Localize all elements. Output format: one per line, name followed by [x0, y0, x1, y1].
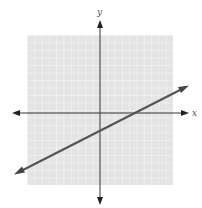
y-axis-top-arrow-icon: [97, 20, 103, 28]
x-axis-left-arrow-icon: [12, 110, 20, 116]
y-axis-label: y: [96, 7, 103, 17]
x-axis-label: x: [192, 108, 197, 118]
coordinate-plane: x y: [0, 0, 202, 208]
line-lower-arrow-icon: [14, 167, 25, 175]
x-axis-right-arrow-icon: [181, 110, 189, 116]
y-axis-bottom-arrow-icon: [97, 197, 103, 205]
line-upper-arrow-icon: [178, 86, 189, 94]
